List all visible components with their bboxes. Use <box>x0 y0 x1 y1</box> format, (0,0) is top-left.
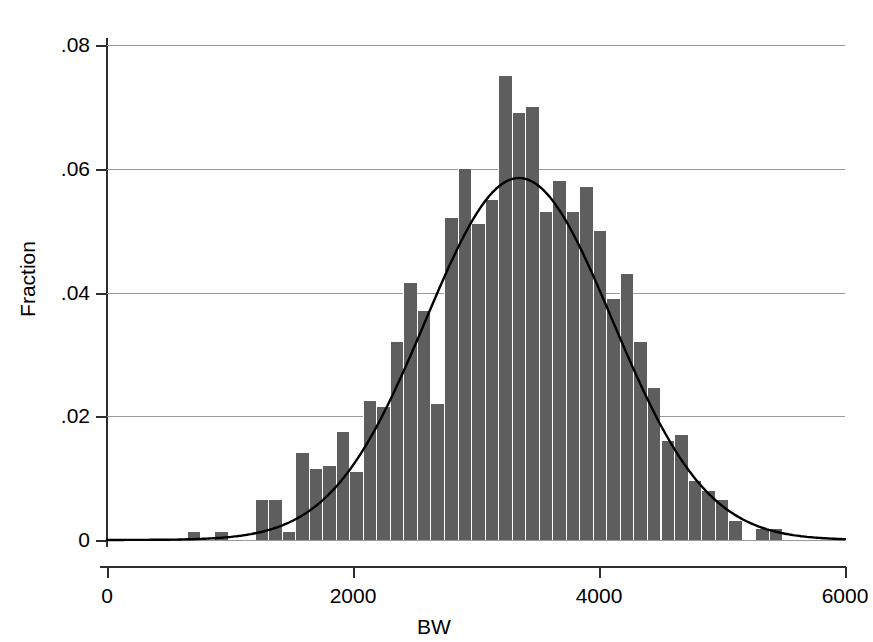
histogram-bar <box>552 181 566 540</box>
histogram-bar <box>430 404 444 540</box>
histogram-bar <box>295 453 309 540</box>
histogram-bar <box>322 466 336 540</box>
y-tick-mark <box>96 416 107 418</box>
histogram-bar <box>688 481 702 540</box>
histogram-bar <box>282 532 296 540</box>
histogram-bar <box>363 401 377 540</box>
histogram-bar <box>444 218 458 540</box>
histogram-bar <box>769 529 783 540</box>
histogram-bar <box>620 274 634 540</box>
histogram-bar <box>715 500 729 540</box>
histogram-bar <box>485 200 499 540</box>
histogram-bar <box>701 491 715 541</box>
y-tick-mark <box>96 293 107 295</box>
histogram-bar <box>579 187 593 540</box>
x-axis-title: BW <box>0 616 868 638</box>
histogram-bar <box>349 472 363 540</box>
histogram-bar <box>471 224 485 540</box>
histogram-bar <box>512 113 526 540</box>
y-tick-label: 0 <box>28 529 90 550</box>
gridline <box>107 169 845 170</box>
gridline <box>107 540 845 541</box>
histogram-bar <box>458 169 472 540</box>
histogram-bar <box>187 532 201 540</box>
histogram-bar <box>403 283 417 540</box>
x-tick-label: 2000 <box>293 584 413 608</box>
x-tick-mark <box>353 567 355 578</box>
x-tick-mark <box>845 567 847 578</box>
x-tick-label: 4000 <box>539 584 659 608</box>
histogram-bar <box>255 500 269 540</box>
y-tick-mark <box>96 169 107 171</box>
histogram-bar <box>268 500 282 540</box>
x-tick-label: 0 <box>47 584 167 608</box>
histogram-bar <box>376 407 390 540</box>
histogram-bar <box>525 107 539 540</box>
y-tick-label: .08 <box>28 34 90 55</box>
y-tick-label: .06 <box>28 158 90 179</box>
x-tick-mark <box>599 567 601 578</box>
histogram-bar <box>336 432 350 540</box>
histogram-bar <box>539 212 553 540</box>
histogram-bar <box>661 441 675 540</box>
y-tick-label: .04 <box>28 282 90 303</box>
histogram-bar <box>606 299 620 540</box>
histogram-bar <box>498 76 512 540</box>
x-tick-label: 6000 <box>785 584 873 608</box>
histogram-bar <box>647 388 661 540</box>
y-tick-mark <box>96 540 107 542</box>
x-axis-line <box>100 566 846 568</box>
histogram-bar <box>390 342 404 540</box>
plot-area <box>107 45 845 540</box>
histogram-bar <box>755 529 769 540</box>
histogram-bar <box>728 521 742 540</box>
histogram-bar <box>214 532 228 540</box>
histogram-bar <box>593 231 607 540</box>
histogram-bar <box>417 311 431 540</box>
histogram-bar <box>633 342 647 540</box>
gridline <box>107 45 845 46</box>
y-tick-label: .02 <box>28 405 90 426</box>
histogram-bar <box>309 469 323 540</box>
x-tick-mark <box>107 567 109 578</box>
histogram-bar <box>674 435 688 540</box>
y-tick-mark <box>96 45 107 47</box>
histogram-bar <box>566 212 580 540</box>
